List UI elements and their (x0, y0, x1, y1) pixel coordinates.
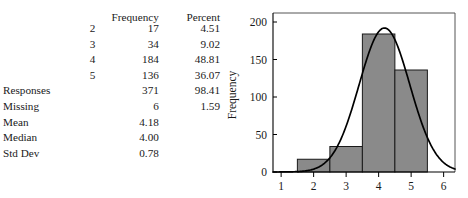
x-axis-ticks: 123456 (278, 172, 447, 192)
row-percent (167, 132, 222, 148)
table-row: Median4.00 (0, 132, 222, 148)
x-tick-label: 6 (441, 180, 447, 192)
row-key (75, 101, 95, 117)
y-axis-title: Frequency (226, 70, 239, 119)
table-header-row: Frequency Percent (0, 6, 222, 23)
row-label: Responses (0, 85, 75, 101)
x-tick-label: 1 (278, 180, 284, 192)
row-percent: 36.07 (167, 70, 222, 86)
x-tick-label: 4 (376, 180, 382, 192)
row-label: Median (0, 132, 75, 148)
row-label (0, 70, 75, 86)
table-header: Frequency Percent (0, 6, 222, 23)
row-key (75, 148, 95, 164)
row-label: Std Dev (0, 148, 75, 164)
table-row: 2174.51 (0, 23, 222, 39)
row-label (0, 54, 75, 70)
histogram-bar (297, 159, 330, 172)
y-tick-label: 200 (250, 16, 268, 28)
row-percent: 4.51 (167, 23, 222, 39)
row-percent (167, 117, 222, 133)
row-frequency: 136 (95, 70, 167, 86)
row-percent: 48.81 (167, 54, 222, 70)
row-key (75, 117, 95, 133)
row-percent: 9.02 (167, 39, 222, 55)
row-frequency: 4.18 (95, 117, 167, 133)
row-frequency: 371 (95, 85, 167, 101)
row-label (0, 23, 75, 39)
table-row: 513636.07 (0, 70, 222, 86)
row-label: Mean (0, 117, 75, 133)
x-tick-label: 2 (311, 180, 317, 192)
stats-table-element: Frequency Percent 2174.513349.02418448.8… (0, 6, 222, 163)
frequency-statistics-table: Frequency Percent 2174.513349.02418448.8… (0, 6, 222, 163)
histogram-bar (362, 34, 395, 172)
row-percent (167, 148, 222, 164)
histogram-svg: 050100150200 123456 Frequency (218, 0, 468, 198)
table-row: Missing61.59 (0, 101, 222, 117)
row-key: 4 (75, 54, 95, 70)
y-tick-label: 150 (250, 54, 268, 66)
y-tick-label: 50 (256, 129, 268, 141)
x-tick-label: 5 (408, 180, 414, 192)
column-header-label (0, 6, 75, 23)
row-frequency: 184 (95, 54, 167, 70)
row-frequency: 0.78 (95, 148, 167, 164)
row-frequency: 6 (95, 101, 167, 117)
column-header-frequency: Frequency (95, 6, 167, 23)
row-key: 5 (75, 70, 95, 86)
row-frequency: 17 (95, 23, 167, 39)
row-percent: 98.41 (167, 85, 222, 101)
y-tick-label: 0 (261, 166, 267, 178)
histogram-bars (297, 34, 427, 172)
row-label: Missing (0, 101, 75, 117)
table-row: 418448.81 (0, 54, 222, 70)
table-body: 2174.513349.02418448.81513636.07Response… (0, 23, 222, 163)
row-label (0, 39, 75, 55)
column-header-percent: Percent (167, 6, 222, 23)
y-tick-label: 100 (250, 91, 268, 103)
table-row: Responses37198.41 (0, 85, 222, 101)
row-key (75, 132, 95, 148)
row-key (75, 85, 95, 101)
table-row: 3349.02 (0, 39, 222, 55)
row-percent: 1.59 (167, 101, 222, 117)
row-frequency: 34 (95, 39, 167, 55)
table-row: Mean4.18 (0, 117, 222, 133)
row-key: 3 (75, 39, 95, 55)
histogram-bar (395, 70, 428, 172)
column-header-key (75, 6, 95, 23)
row-key: 2 (75, 23, 95, 39)
x-tick-label: 3 (343, 180, 349, 192)
histogram-chart: 050100150200 123456 Frequency (218, 0, 468, 198)
table-row: Std Dev0.78 (0, 148, 222, 164)
row-frequency: 4.00 (95, 132, 167, 148)
